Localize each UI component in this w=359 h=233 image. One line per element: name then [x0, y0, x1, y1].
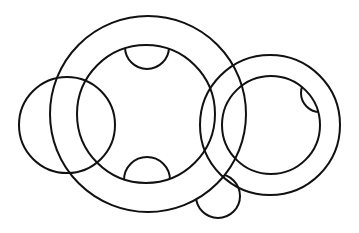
circles-diagram	[0, 0, 359, 233]
right-inner-circle	[222, 76, 320, 174]
inner-semicircles-group	[124, 25, 170, 203]
left-circle	[19, 77, 115, 173]
